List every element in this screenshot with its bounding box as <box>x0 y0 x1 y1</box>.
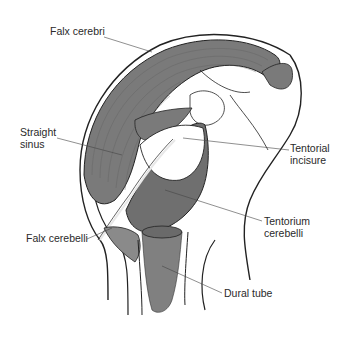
leader-falx-cerebri <box>104 37 152 52</box>
label-dural-tube: Dural tube <box>224 287 272 299</box>
label-text: Dural tube <box>224 287 272 299</box>
label-text-line2: incisure <box>290 154 330 166</box>
brainstem-outline <box>190 91 224 125</box>
label-text: Falx cerebelli <box>26 232 88 244</box>
falx-cerebelli-shape <box>104 227 140 262</box>
label-text-line1: Straight <box>20 126 56 138</box>
label-tentorial-incisure: Tentorial incisure <box>290 142 330 166</box>
dural-anatomy-diagram: Falx cerebri Straight sinus Tentorial in… <box>0 0 344 338</box>
neck-right-outline <box>202 240 215 310</box>
label-straight-sinus: Straight sinus <box>20 126 56 150</box>
label-falx-cerebelli: Falx cerebelli <box>26 232 88 244</box>
head-right-outline <box>244 55 301 280</box>
label-text-line2: cerebelli <box>264 227 310 239</box>
dura-illustration <box>0 0 344 338</box>
label-text: Falx cerebri <box>50 25 105 37</box>
dural-tube-shape <box>142 228 182 313</box>
spinal-outline-right <box>185 232 188 305</box>
label-falx-cerebri: Falx cerebri <box>50 25 105 37</box>
dural-tube-top <box>142 226 182 238</box>
label-tentorium-cerebelli: Tentorium cerebelli <box>264 215 310 239</box>
label-text-line2: sinus <box>20 138 56 150</box>
label-text-line1: Tentorial <box>290 142 330 154</box>
label-text-line1: Tentorium <box>264 215 310 227</box>
